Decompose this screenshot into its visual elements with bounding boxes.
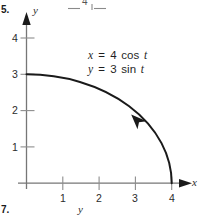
x-tick-label-2: 2 bbox=[93, 192, 105, 204]
y-tick-label-3: 3 bbox=[9, 68, 21, 80]
equation-y-function: sin bbox=[121, 63, 136, 75]
equation-x-coefficient: 4 bbox=[110, 49, 116, 61]
parametric-equations-annotation: x = 4 cos t y = 3 sin t bbox=[88, 48, 147, 76]
equation-x-lhs: x bbox=[88, 49, 93, 61]
y-tick-label-4: 4 bbox=[9, 32, 21, 44]
direction-arrow-icon bbox=[131, 115, 147, 130]
equation-y-equals: = bbox=[96, 63, 107, 75]
y-tick-label-1: 1 bbox=[9, 141, 21, 153]
equation-x-parameter: t bbox=[144, 49, 147, 61]
equation-y: y = 3 sin t bbox=[88, 62, 147, 76]
x-tick-label-4: 4 bbox=[166, 192, 178, 204]
y-axis-ticks bbox=[21, 38, 35, 147]
x-axis-label: x bbox=[192, 176, 197, 188]
ellipse-arc-curve bbox=[27, 74, 172, 183]
x-tick-label-1: 1 bbox=[57, 192, 69, 204]
figure-container: 4 5. 7. bbox=[0, 0, 202, 219]
y-tick-label-2: 2 bbox=[9, 104, 21, 116]
equation-x-equals: = bbox=[96, 49, 107, 61]
next-figure-y-axis-label: y bbox=[78, 203, 83, 215]
equation-x-function: cos bbox=[121, 49, 139, 61]
x-axis bbox=[18, 179, 192, 188]
parametric-curve-plot bbox=[0, 0, 202, 219]
x-tick-label-3: 3 bbox=[129, 192, 141, 204]
equation-y-lhs: y bbox=[88, 63, 93, 75]
equation-x: x = 4 cos t bbox=[88, 48, 147, 62]
y-axis-label: y bbox=[33, 4, 38, 16]
equation-y-coefficient: 3 bbox=[110, 63, 116, 75]
equation-y-parameter: t bbox=[141, 63, 144, 75]
